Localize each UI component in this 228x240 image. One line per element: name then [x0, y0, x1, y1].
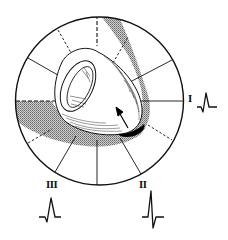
lead-I-label: I	[188, 95, 192, 104]
hexaxial-diagram	[0, 0, 228, 240]
spoke-60	[120, 138, 141, 174]
ecg-lead-III-waveform	[39, 198, 61, 222]
ecg-lead-I-waveform	[197, 93, 217, 112]
lead-III-label: III	[46, 181, 57, 190]
spoke-30-dashed	[148, 125, 172, 140]
ecg-lead-II-waveform	[142, 191, 164, 228]
lead-II-label: II	[139, 181, 146, 190]
